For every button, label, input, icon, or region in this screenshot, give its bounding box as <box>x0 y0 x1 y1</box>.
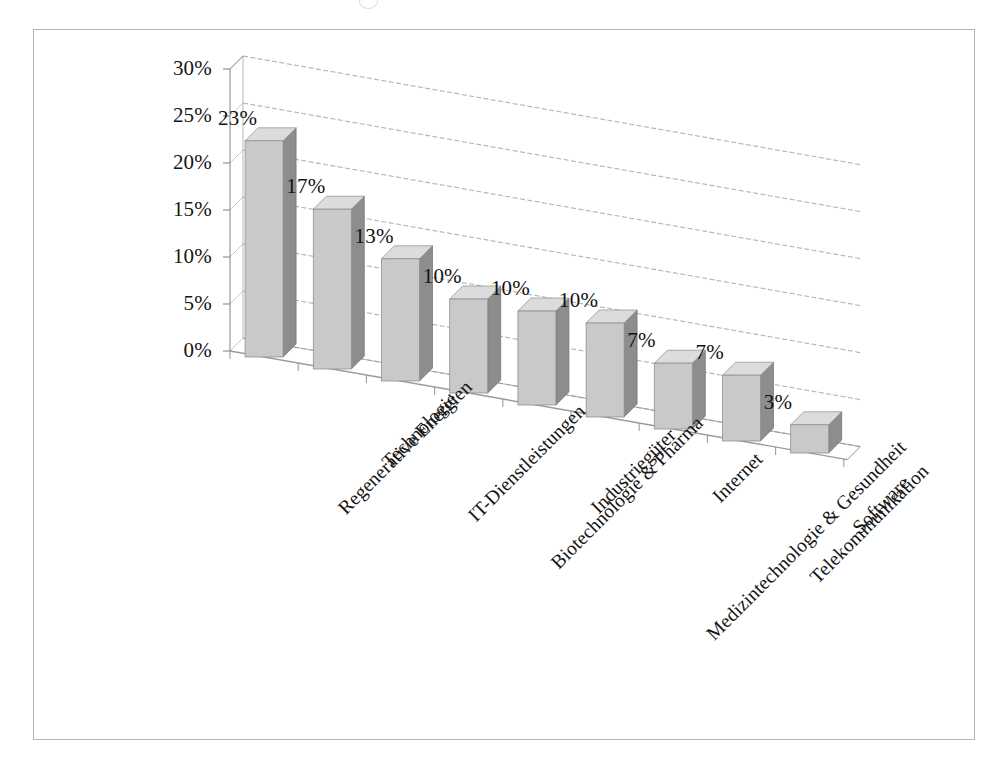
bar-front-face <box>586 323 624 417</box>
gridline <box>243 103 860 212</box>
bar <box>450 286 501 393</box>
bar-value-label: 23% <box>218 108 257 129</box>
bar-value-label: 17% <box>286 176 325 197</box>
y-axis-tick-label: 20% <box>134 152 212 173</box>
bar-value-label: 3% <box>764 392 792 413</box>
y-axis-tick-depth <box>230 150 243 163</box>
bar <box>791 412 842 453</box>
bars <box>245 128 842 453</box>
bar-value-label: 7% <box>627 330 655 351</box>
bar <box>313 196 364 369</box>
bar-value-label: 10% <box>423 266 462 287</box>
y-axis-tick-depth <box>230 291 243 304</box>
y-axis-tick-depth <box>230 56 243 69</box>
bar-side-face <box>556 298 569 405</box>
bar-side-face <box>624 310 637 417</box>
y-axis-tick-label: 5% <box>134 293 212 314</box>
bar-front-face <box>723 375 761 441</box>
bar-side-face <box>283 128 296 357</box>
floor-right-edge <box>847 447 860 460</box>
bar-side-face <box>488 286 501 393</box>
y-axis-tick-label: 25% <box>134 105 212 126</box>
bar-front-face <box>245 141 283 357</box>
bar-front-face <box>791 425 829 453</box>
y-axis-tick-label: 0% <box>134 340 212 361</box>
bar-side-face <box>351 196 364 369</box>
y-axis-tick-depth <box>230 197 243 210</box>
bar-front-face <box>450 299 488 393</box>
plot-area: 0%5%10%15%20%25%30% 23%17%13%10%10%10%7%… <box>34 30 976 741</box>
gridline <box>243 56 860 165</box>
bar-front-face <box>654 363 692 429</box>
bar-front-face <box>382 259 420 381</box>
y-axis-tick-label: 30% <box>134 58 212 79</box>
bar <box>586 310 637 417</box>
chart-frame: 0%5%10%15%20%25%30% 23%17%13%10%10%10%7%… <box>33 29 975 740</box>
scan-artifact <box>359 0 378 9</box>
bar-value-label: 10% <box>491 278 530 299</box>
bar-front-face <box>518 311 556 405</box>
y-axis-tick-label: 10% <box>134 246 212 267</box>
y-axis-tick-depth <box>230 244 243 257</box>
chart-canvas <box>34 30 976 741</box>
bar <box>518 298 569 405</box>
y-axis-tick-depth <box>230 338 243 351</box>
bar <box>245 128 296 357</box>
y-axis-tick-label: 15% <box>134 199 212 220</box>
bar-value-label: 10% <box>559 290 598 311</box>
bar-front-face <box>313 209 351 369</box>
bar-value-label: 13% <box>355 226 394 247</box>
y-axis-wall <box>223 56 243 351</box>
bar-value-label: 7% <box>696 342 724 363</box>
